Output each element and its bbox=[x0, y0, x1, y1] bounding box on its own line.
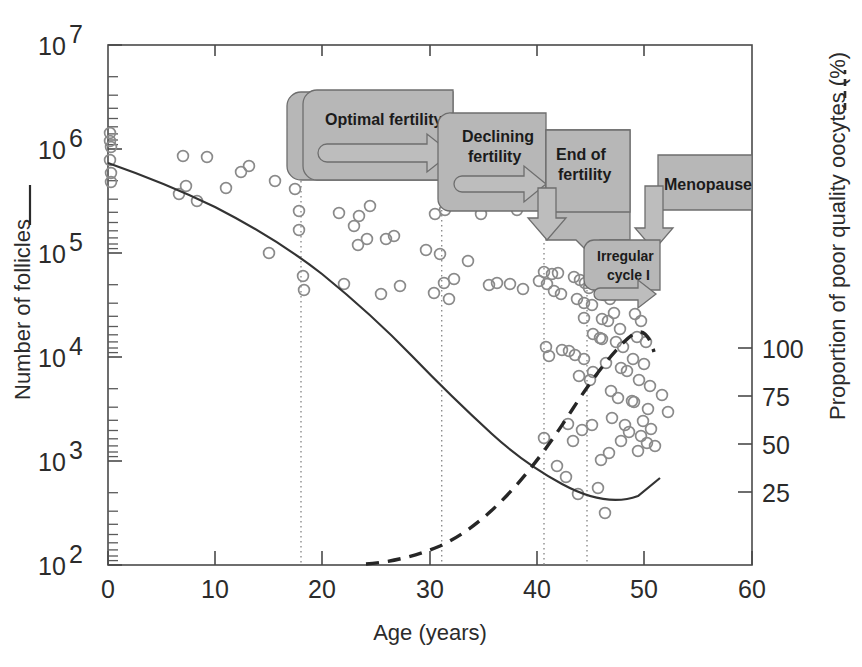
y-right-tick-labels: 100 75 50 25 bbox=[762, 335, 804, 507]
x-tick-40: 40 bbox=[523, 575, 551, 603]
x-tick-10: 10 bbox=[201, 575, 229, 603]
x-tick-labels: 0 10 20 30 40 50 60 bbox=[101, 575, 766, 603]
callout-menopause[interactable]: Menopause bbox=[635, 155, 752, 250]
callout-optimal-fertility-label: Optimal fertility bbox=[325, 111, 442, 128]
y-tick-1e6-exp: 6 bbox=[69, 124, 83, 152]
y-tick-1e4: 10 bbox=[38, 344, 66, 372]
y-right-tick-75: 75 bbox=[762, 383, 790, 411]
x-tick-60: 60 bbox=[738, 575, 766, 603]
callout-irregular-cycle-label-1: Irregular bbox=[597, 248, 654, 264]
y-tick-1e2-exp: 2 bbox=[69, 540, 83, 568]
callout-irregular-cycle[interactable]: Irregular cycle I bbox=[584, 240, 660, 308]
follicle-decline-chart: 10 7 10 6 10 5 10 4 10 3 10 2 Number of … bbox=[0, 0, 862, 667]
y-tick-1e5-exp: 5 bbox=[69, 228, 83, 256]
callout-declining-fertility[interactable]: Declining fertility bbox=[438, 113, 546, 211]
callout-irregular-cycle-label-2: cycle I bbox=[607, 267, 650, 283]
y-left-major-ticks bbox=[108, 45, 122, 565]
callout-optimal-fertility[interactable]: Optimal fertility bbox=[287, 90, 453, 180]
y-tick-1e7: 10 bbox=[38, 32, 66, 60]
y-left-axis-title: Number of follicles bbox=[10, 219, 35, 400]
y-right-ticks bbox=[738, 348, 752, 492]
y-left-tick-labels: 10 7 10 6 10 5 10 4 10 3 10 2 bbox=[38, 20, 83, 580]
y-tick-1e4-exp: 4 bbox=[69, 332, 83, 360]
callout-menopause-label: Menopause bbox=[664, 176, 752, 193]
chart-figure: 10 7 10 6 10 5 10 4 10 3 10 2 Number of … bbox=[0, 0, 862, 667]
y-tick-1e3: 10 bbox=[38, 448, 66, 476]
x-tick-30: 30 bbox=[416, 575, 444, 603]
y-tick-1e3-exp: 3 bbox=[69, 436, 83, 464]
y-right-tick-25: 25 bbox=[762, 479, 790, 507]
y-tick-1e5: 10 bbox=[38, 240, 66, 268]
callout-end-of-fertility-label-1: End of bbox=[556, 146, 606, 163]
x-tick-0: 0 bbox=[101, 575, 115, 603]
y-right-axis-title-group: Proportion of poor quality oocytes (%) bbox=[825, 52, 850, 420]
callout-declining-fertility-label-2: fertility bbox=[468, 148, 521, 165]
callout-declining-fertility-label-1: Declining bbox=[462, 128, 534, 145]
y-left-axis-title-group: Number of follicles bbox=[10, 185, 35, 400]
y-tick-1e7-exp: 7 bbox=[69, 20, 83, 48]
x-axis-title: Age (years) bbox=[373, 620, 487, 645]
y-right-tick-50: 50 bbox=[762, 431, 790, 459]
x-tick-20: 20 bbox=[308, 575, 336, 603]
x-tick-50: 50 bbox=[630, 575, 658, 603]
callout-end-of-fertility-label-2: fertility bbox=[558, 166, 611, 183]
y-tick-1e2: 10 bbox=[38, 552, 66, 580]
y-tick-1e6: 10 bbox=[38, 136, 66, 164]
y-right-tick-100: 100 bbox=[762, 335, 804, 363]
